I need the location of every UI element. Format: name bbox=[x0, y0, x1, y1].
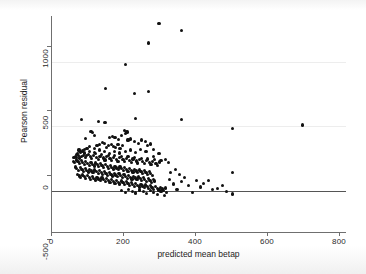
data-point bbox=[187, 184, 190, 187]
data-point bbox=[157, 152, 160, 155]
data-point bbox=[134, 191, 137, 194]
data-point bbox=[123, 160, 126, 163]
data-point bbox=[104, 87, 107, 90]
data-point bbox=[103, 158, 106, 161]
data-point bbox=[168, 178, 171, 181]
data-point bbox=[116, 143, 119, 146]
data-point bbox=[88, 150, 91, 153]
data-point bbox=[180, 180, 183, 183]
data-point bbox=[152, 148, 155, 151]
data-point bbox=[98, 143, 101, 146]
data-point bbox=[153, 158, 156, 161]
data-point bbox=[84, 137, 87, 140]
data-point bbox=[167, 161, 170, 164]
data-point bbox=[153, 179, 156, 182]
plot-area bbox=[51, 16, 346, 232]
x-tick-label-200: 200 bbox=[103, 237, 143, 246]
data-point bbox=[149, 163, 152, 166]
data-point bbox=[152, 191, 155, 194]
data-point bbox=[147, 90, 150, 93]
data-point bbox=[118, 151, 121, 154]
data-point bbox=[178, 173, 181, 176]
data-point bbox=[140, 138, 143, 141]
data-point bbox=[83, 151, 86, 154]
y-axis-line bbox=[51, 16, 52, 232]
data-point bbox=[225, 190, 228, 193]
x-tick-200 bbox=[123, 232, 124, 236]
data-point bbox=[180, 118, 183, 121]
data-point bbox=[105, 146, 108, 149]
data-point bbox=[88, 145, 91, 148]
data-point bbox=[159, 159, 162, 162]
data-point bbox=[195, 179, 198, 182]
data-point bbox=[102, 166, 105, 169]
data-point bbox=[108, 152, 111, 155]
data-point bbox=[129, 137, 132, 140]
data-point bbox=[136, 161, 139, 164]
data-point bbox=[113, 154, 116, 157]
gridline-1000 bbox=[51, 62, 346, 63]
x-tick-label-800: 800 bbox=[319, 237, 359, 246]
data-point bbox=[103, 121, 106, 124]
data-point bbox=[221, 184, 224, 187]
data-point bbox=[124, 63, 127, 66]
x-tick-400 bbox=[195, 232, 196, 236]
data-point bbox=[231, 192, 234, 195]
x-axis-line bbox=[51, 232, 346, 233]
x-tick-label-400: 400 bbox=[175, 237, 215, 246]
zero-reference-line bbox=[51, 191, 346, 192]
x-axis-title: predicted mean betap bbox=[51, 249, 346, 259]
data-point bbox=[80, 118, 83, 121]
data-point bbox=[164, 186, 167, 189]
data-point bbox=[159, 190, 162, 193]
data-point bbox=[97, 120, 100, 123]
data-point bbox=[207, 179, 210, 182]
x-tick-label-600: 600 bbox=[247, 237, 287, 246]
data-point bbox=[145, 192, 148, 195]
data-point bbox=[126, 155, 129, 158]
data-point bbox=[117, 138, 120, 141]
data-point bbox=[172, 182, 175, 185]
data-point bbox=[124, 191, 127, 194]
data-point bbox=[103, 150, 106, 153]
y-tick-label-1000: 1000 bbox=[41, 48, 50, 70]
data-point bbox=[151, 174, 154, 177]
y-tick-label-500: 500 bbox=[41, 112, 50, 134]
data-point bbox=[156, 193, 159, 196]
data-point bbox=[144, 150, 147, 153]
data-point bbox=[134, 117, 137, 120]
data-point bbox=[113, 150, 116, 153]
data-point bbox=[191, 191, 194, 194]
data-point bbox=[93, 147, 96, 150]
data-point bbox=[90, 157, 93, 160]
data-point bbox=[231, 127, 234, 130]
data-point bbox=[174, 168, 177, 171]
x-tick-label-0: 0 bbox=[31, 237, 71, 246]
data-point bbox=[137, 142, 140, 145]
x-tick-600 bbox=[267, 232, 268, 236]
data-point bbox=[130, 161, 133, 164]
y-tick-label-0: 0 bbox=[41, 177, 50, 199]
data-point bbox=[175, 188, 178, 191]
data-point bbox=[199, 185, 202, 188]
data-point bbox=[124, 150, 127, 153]
y-axis-title: Pearson residual bbox=[19, 41, 29, 181]
data-point bbox=[103, 142, 106, 145]
data-point bbox=[149, 142, 152, 145]
data-point bbox=[202, 182, 205, 185]
data-point bbox=[143, 162, 146, 165]
data-point bbox=[180, 29, 183, 32]
data-point bbox=[116, 160, 119, 163]
data-point bbox=[118, 147, 121, 150]
data-point bbox=[169, 171, 172, 174]
x-tick-0 bbox=[51, 232, 52, 236]
data-point bbox=[183, 176, 186, 179]
data-point bbox=[133, 140, 136, 143]
data-point bbox=[79, 176, 82, 179]
data-point bbox=[165, 191, 168, 194]
data-point bbox=[156, 164, 159, 167]
data-point bbox=[138, 188, 141, 191]
data-point bbox=[120, 134, 123, 137]
data-point bbox=[98, 148, 101, 151]
data-point bbox=[134, 151, 137, 154]
